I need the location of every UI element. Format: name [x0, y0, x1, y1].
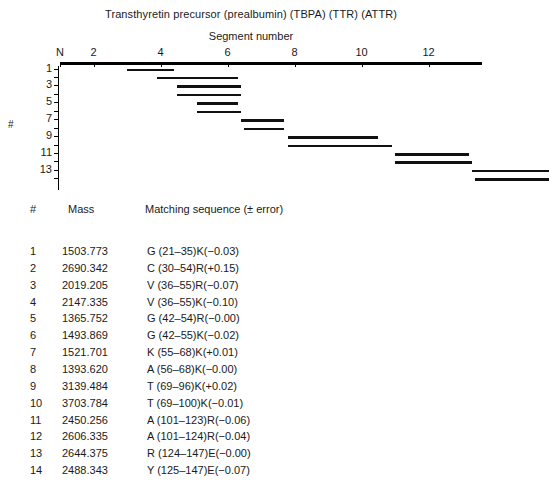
table-row: 42147.335V (36–55)K(−0.10): [0, 296, 502, 312]
cell-mass: 2606.335: [62, 430, 124, 442]
segment-bar: [288, 136, 378, 139]
y-tick: [54, 102, 58, 103]
segment-bar: [395, 161, 472, 164]
table-row: 103703.784T (69–100)K(−0.01): [0, 397, 502, 413]
cell-sequence: K (55–68)K(+0.01): [147, 346, 327, 358]
cell-number: 12: [30, 430, 52, 442]
segment-bar: [244, 128, 284, 131]
cell-mass: 2488.343: [62, 464, 124, 476]
segment-bar: [197, 102, 237, 105]
segment-bar: [475, 178, 549, 181]
table-row: 122606.335A (101–124)R(−0.04): [0, 430, 502, 446]
segment-coverage-plot: # N24681012135791113: [0, 0, 502, 200]
table-row: 51365.752G (42–54)R(−0.00): [0, 312, 502, 328]
y-tick-label: 5: [22, 95, 52, 107]
x-tick-label: 12: [414, 46, 444, 58]
cell-mass: 2019.205: [62, 279, 124, 291]
cell-mass: 2147.335: [62, 296, 124, 308]
table-row: 112450.256A (101–123)R(−0.06): [0, 414, 502, 430]
cell-mass: 1521.701: [62, 346, 124, 358]
x-tick-label: 6: [213, 46, 243, 58]
x-tick-label: N: [45, 46, 75, 58]
y-tick: [54, 153, 58, 154]
x-tick-label: 8: [280, 46, 310, 58]
cell-mass: 1503.773: [62, 245, 124, 257]
segment-bar: [197, 111, 241, 114]
cell-mass: 3703.784: [62, 397, 124, 409]
segment-bar: [241, 119, 285, 122]
cell-sequence: G (42–54)R(−0.00): [147, 312, 327, 324]
cell-sequence: T (69–100)K(−0.01): [147, 397, 327, 409]
cell-sequence: V (36–55)K(−0.10): [147, 296, 327, 308]
cell-sequence: V (36–55)R(−0.07): [147, 279, 327, 291]
y-tick: [54, 111, 58, 112]
x-tick-label: 4: [146, 46, 176, 58]
table-row: 61493.869G (42–55)K(−0.02): [0, 329, 502, 345]
table-header-row: # Mass Matching sequence (± error): [0, 203, 502, 219]
y-tick: [54, 161, 58, 162]
cell-mass: 2690.342: [62, 262, 124, 274]
table-row: 142488.343Y (125–147)E(−0.07): [0, 464, 502, 480]
table-row: 93139.484T (69–96)K(+0.02): [0, 380, 502, 396]
x-tick: [161, 63, 162, 67]
cell-number: 1: [30, 245, 52, 257]
table-row: 132644.375R (124–147)E(−0.00): [0, 447, 502, 463]
segment-bar: [288, 145, 392, 148]
y-axis-title: #: [8, 119, 14, 130]
cell-mass: 2644.375: [62, 447, 124, 459]
cell-number: 2: [30, 262, 52, 274]
x-tick: [228, 63, 229, 67]
table-row: 22690.342C (30–54)R(+0.15): [0, 262, 502, 278]
cell-sequence: G (42–55)K(−0.02): [147, 329, 327, 341]
segment-bar: [472, 170, 549, 173]
table-row: 81393.620A (56–68)K(−0.00): [0, 363, 502, 379]
cell-sequence: R (124–147)E(−0.00): [147, 447, 327, 459]
header-sequence: Matching sequence (± error): [145, 203, 283, 215]
cell-number: 7: [30, 346, 52, 358]
x-tick: [94, 63, 95, 67]
cell-number: 14: [30, 464, 52, 476]
cell-sequence: A (56–68)K(−0.00): [147, 363, 327, 375]
cell-number: 9: [30, 380, 52, 392]
y-tick: [54, 170, 58, 171]
segment-bar: [395, 153, 469, 156]
cell-mass: 1365.752: [62, 312, 124, 324]
cell-number: 4: [30, 296, 52, 308]
y-axis-line: [58, 66, 59, 190]
cell-mass: 1493.869: [62, 329, 124, 341]
cell-number: 10: [30, 397, 52, 409]
x-tick-label: 2: [79, 46, 109, 58]
table-row: 71521.701K (55–68)K(+0.01): [0, 346, 502, 362]
segment-bar: [177, 85, 241, 88]
x-tick: [362, 63, 363, 67]
cell-number: 11: [30, 414, 52, 426]
table-row: 32019.205V (36–55)R(−0.07): [0, 279, 502, 295]
cell-number: 6: [30, 329, 52, 341]
cell-sequence: C (30–54)R(+0.15): [147, 262, 327, 274]
x-tick: [429, 63, 430, 67]
header-mass: Mass: [68, 203, 94, 215]
cell-number: 13: [30, 447, 52, 459]
cell-sequence: Y (125–147)E(−0.07): [147, 464, 327, 476]
y-tick: [54, 178, 58, 179]
y-tick: [54, 77, 58, 78]
segment-bar: [127, 69, 174, 72]
cell-mass: 3139.484: [62, 380, 124, 392]
table-row: 11503.773G (21–35)K(−0.03): [0, 245, 502, 261]
y-tick: [54, 145, 58, 146]
cell-number: 5: [30, 312, 52, 324]
x-tick: [295, 63, 296, 67]
cell-sequence: T (69–96)K(+0.02): [147, 380, 327, 392]
y-tick: [54, 119, 58, 120]
cell-number: 8: [30, 363, 52, 375]
y-tick: [54, 69, 58, 70]
header-number: #: [30, 203, 36, 215]
cell-mass: 1393.620: [62, 363, 124, 375]
y-tick-label: 9: [22, 129, 52, 141]
x-tick: [60, 63, 61, 67]
segment-bar: [177, 94, 241, 97]
cell-sequence: G (21–35)K(−0.03): [147, 245, 327, 257]
x-tick-label: 10: [347, 46, 377, 58]
segment-bar: [157, 77, 237, 80]
y-tick: [54, 94, 58, 95]
